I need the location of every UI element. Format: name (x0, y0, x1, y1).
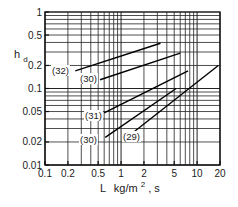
series-labels: (32)(30)(31)(30)(29) (51, 65, 141, 145)
grid-lines (45, 12, 220, 165)
x-tick-label: 0.2 (61, 168, 75, 179)
y-tick-label: 0.01 (23, 160, 43, 171)
y-tick-label: 0.1 (28, 83, 42, 94)
y-tick-label: 0.5 (28, 30, 42, 41)
series-label: (32) (52, 65, 69, 76)
x-axis-label: L kg/m 2 , s (100, 177, 160, 194)
y-tick-label: 0.05 (23, 106, 43, 117)
x-axis-ticks: 0.10.20.51251020 (38, 161, 226, 179)
x-axis-label-sup: 2 (141, 180, 146, 189)
x-tick-label: 0.5 (91, 168, 105, 179)
y-tick-label: 1 (36, 7, 42, 18)
x-axis-label-main: L (100, 182, 106, 194)
x-tick-label: 20 (214, 168, 226, 179)
series-label: (30) (80, 73, 97, 84)
y-axis-label: h d (14, 48, 28, 64)
x-tick-label: 5 (171, 168, 177, 179)
series-label: (31) (85, 110, 102, 121)
y-tick-label: 0.02 (23, 136, 43, 147)
x-tick-label: 10 (192, 168, 204, 179)
y-tick-label: 0.2 (28, 60, 42, 71)
series-line (100, 53, 180, 80)
series-line (132, 65, 218, 133)
log-log-chart: (32)(30)(31)(30)(29) 0.10.20.51251020 0.… (0, 0, 238, 207)
x-tick-label: 1 (118, 168, 124, 179)
x-axis-label-tail: , s (148, 182, 160, 194)
series-label: (29) (123, 131, 140, 142)
x-axis-label-units: kg/m (114, 182, 138, 194)
series-label: (30) (80, 134, 97, 145)
y-axis-label-main: h (14, 48, 20, 60)
y-axis-label-sub: d (23, 55, 27, 64)
